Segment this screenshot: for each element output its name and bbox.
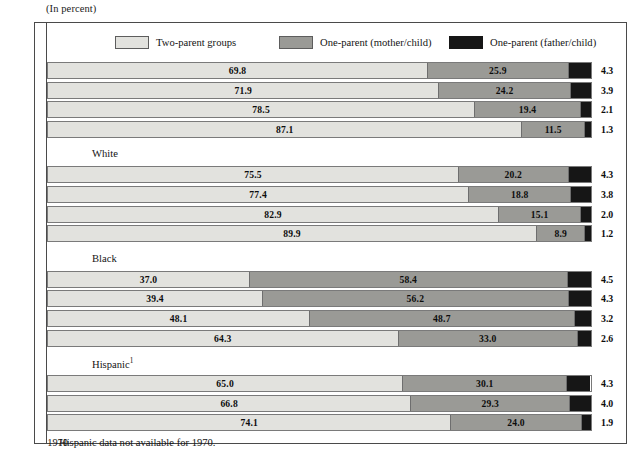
bar-segment-dad[interactable] <box>568 291 591 306</box>
bar-segment-value: 19.4 <box>519 104 537 115</box>
father-child-value-label: 4.3 <box>601 166 613 183</box>
bar-segment-mom[interactable]: 29.3 <box>410 396 569 411</box>
stacked-bar[interactable]: 71.924.2 <box>47 82 592 99</box>
bar-segment-mom[interactable]: 56.2 <box>262 291 567 306</box>
bar-segment-value: 15.1 <box>531 209 549 220</box>
bar-segment-mom[interactable]: 33.0 <box>398 331 577 346</box>
bar-segment-two[interactable]: 87.1 <box>48 122 521 137</box>
bar-segment-value: 69.8 <box>229 65 247 76</box>
bar-segment-two[interactable]: 39.4 <box>48 291 262 306</box>
stacked-bar[interactable]: 64.333.0 <box>47 330 592 347</box>
page-subtitle: (In percent) <box>46 3 96 14</box>
father-child-value-label: 1.9 <box>601 414 613 431</box>
stacked-bar[interactable]: 69.825.9 <box>47 62 592 79</box>
chart-row: 199077.418.83.8 <box>35 186 626 203</box>
bar-segment-two[interactable]: 37.0 <box>48 272 249 287</box>
chart-row: 199071.924.23.9 <box>35 82 626 99</box>
stacked-bar[interactable]: 39.456.2 <box>47 290 592 307</box>
father-child-value-label: 3.9 <box>601 82 613 99</box>
bar-segment-value: 20.2 <box>505 169 523 180</box>
stacked-bar[interactable]: 78.519.4 <box>47 101 592 118</box>
stacked-bar[interactable]: 37.058.4 <box>47 271 592 288</box>
bar-segment-value: 65.0 <box>216 378 234 389</box>
bar-segment-dad[interactable] <box>568 63 591 78</box>
bar-segment-mom[interactable]: 58.4 <box>249 272 566 287</box>
bar-segment-two[interactable]: 65.0 <box>48 376 402 391</box>
stacked-bar[interactable]: 48.148.7 <box>47 310 592 327</box>
stacked-bar[interactable]: 89.98.9 <box>47 225 592 242</box>
bar-segment-mom[interactable]: 48.7 <box>309 311 573 326</box>
bar-segment-dad[interactable] <box>569 396 591 411</box>
bar-segment-mom[interactable]: 24.0 <box>450 415 580 430</box>
bar-segment-mom[interactable]: 19.4 <box>474 102 579 117</box>
bar-segment-dad[interactable] <box>568 167 591 182</box>
bar-segment-mom[interactable]: 15.1 <box>498 207 580 222</box>
bar-segment-mom[interactable]: 24.2 <box>438 83 569 98</box>
stacked-bar[interactable]: 75.520.2 <box>47 166 592 183</box>
bar-segment-two[interactable]: 74.1 <box>48 415 450 430</box>
bar-segment-mom[interactable]: 18.8 <box>468 187 570 202</box>
bar-segment-two[interactable]: 64.3 <box>48 331 398 346</box>
bar-segment-value: 11.5 <box>545 124 562 135</box>
father-child-value-label: 2.1 <box>601 101 613 118</box>
bar-segment-dad[interactable] <box>570 83 591 98</box>
bar-segment-value: 58.4 <box>400 274 418 285</box>
chart-row: 199337.058.44.5 <box>35 271 626 288</box>
bar-segment-two[interactable]: 48.1 <box>48 311 309 326</box>
stacked-bar[interactable]: 66.829.3 <box>47 395 592 412</box>
bar-segment-dad[interactable] <box>584 226 591 241</box>
legend-swatch-mom-icon <box>279 36 313 49</box>
legend-label-two: Two-parent groups <box>156 37 236 48</box>
bar-segment-mom[interactable]: 8.9 <box>536 226 584 241</box>
bar-segment-dad[interactable] <box>566 376 589 391</box>
bar-segment-two[interactable]: 77.4 <box>48 187 468 202</box>
legend-label-dad: One-parent (father/child) <box>490 37 596 48</box>
chart-row: 198078.519.42.1 <box>35 101 626 118</box>
bar-segment-dad[interactable] <box>581 415 591 430</box>
bar-segment-two[interactable]: 75.5 <box>48 167 458 182</box>
bar-segment-value: 25.9 <box>489 65 507 76</box>
bar-segment-two[interactable]: 71.9 <box>48 83 438 98</box>
bar-segment-dad[interactable] <box>580 207 591 222</box>
bar-segment-mom[interactable]: 30.1 <box>402 376 566 391</box>
bar-segment-dad[interactable] <box>570 187 591 202</box>
bar-segment-dad[interactable] <box>567 272 591 287</box>
group-title-black: Black <box>92 253 117 264</box>
legend-item-mom: One-parent (mother/child) <box>279 36 431 49</box>
bar-segment-two[interactable]: 66.8 <box>48 396 410 411</box>
bar-segment-dad[interactable] <box>577 331 591 346</box>
stacked-bar[interactable]: 65.030.1 <box>47 375 592 392</box>
chart-frame: Two-parent groupsOne-parent (mother/chil… <box>34 22 627 444</box>
chart-row: 197064.333.02.6 <box>35 330 626 347</box>
bar-segment-two[interactable]: 78.5 <box>48 102 474 117</box>
father-child-value-label: 4.3 <box>601 375 613 392</box>
group-title-white: White <box>92 148 118 159</box>
chart-row: 197087.111.51.3 <box>35 121 626 138</box>
bar-segment-mom[interactable]: 25.9 <box>427 63 568 78</box>
stacked-bar[interactable]: 87.111.5 <box>47 121 592 138</box>
bar-segment-two[interactable]: 69.8 <box>48 63 427 78</box>
bar-segment-value: 37.0 <box>140 274 158 285</box>
group-title-hispanic: Hispanic1 <box>92 357 133 370</box>
bar-segment-value: 64.3 <box>214 333 232 344</box>
bar-segment-dad[interactable] <box>584 122 591 137</box>
chart-row: 199375.520.24.3 <box>35 166 626 183</box>
bar-segment-mom[interactable]: 20.2 <box>458 167 568 182</box>
legend-swatch-dad-icon <box>449 36 483 49</box>
bar-segment-two[interactable]: 89.9 <box>48 226 536 241</box>
legend-swatch-two-icon <box>115 36 149 49</box>
bar-segment-value: 24.0 <box>507 417 525 428</box>
bar-segment-value: 39.4 <box>146 293 164 304</box>
father-child-value-label: 4.5 <box>601 271 613 288</box>
no-data-note: Hispanic data not available for 1970. <box>59 434 216 451</box>
stacked-bar[interactable]: 82.915.1 <box>47 206 592 223</box>
bar-segment-dad[interactable] <box>580 102 591 117</box>
stacked-bar[interactable]: 74.124.0 <box>47 414 592 431</box>
chart-row: 199369.825.94.3 <box>35 62 626 79</box>
chart-row: 198074.124.01.9 <box>35 414 626 431</box>
father-child-value-label: 3.8 <box>601 186 613 203</box>
bar-segment-dad[interactable] <box>574 311 591 326</box>
bar-segment-two[interactable]: 82.9 <box>48 207 498 222</box>
stacked-bar[interactable]: 77.418.8 <box>47 186 592 203</box>
bar-segment-mom[interactable]: 11.5 <box>521 122 584 137</box>
